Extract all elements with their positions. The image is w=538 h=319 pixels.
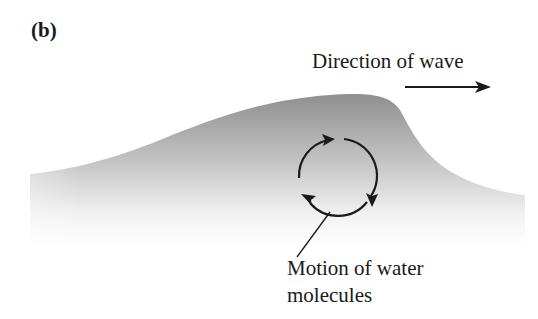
panel-label: (b) [31, 18, 57, 43]
motion-label-line1: Motion of water [287, 255, 423, 282]
wave-fade [30, 90, 530, 250]
wave-diagram [0, 0, 538, 319]
motion-label-line2: molecules [287, 282, 423, 309]
direction-label: Direction of wave [312, 49, 464, 74]
motion-label: Motion of water molecules [287, 255, 423, 309]
